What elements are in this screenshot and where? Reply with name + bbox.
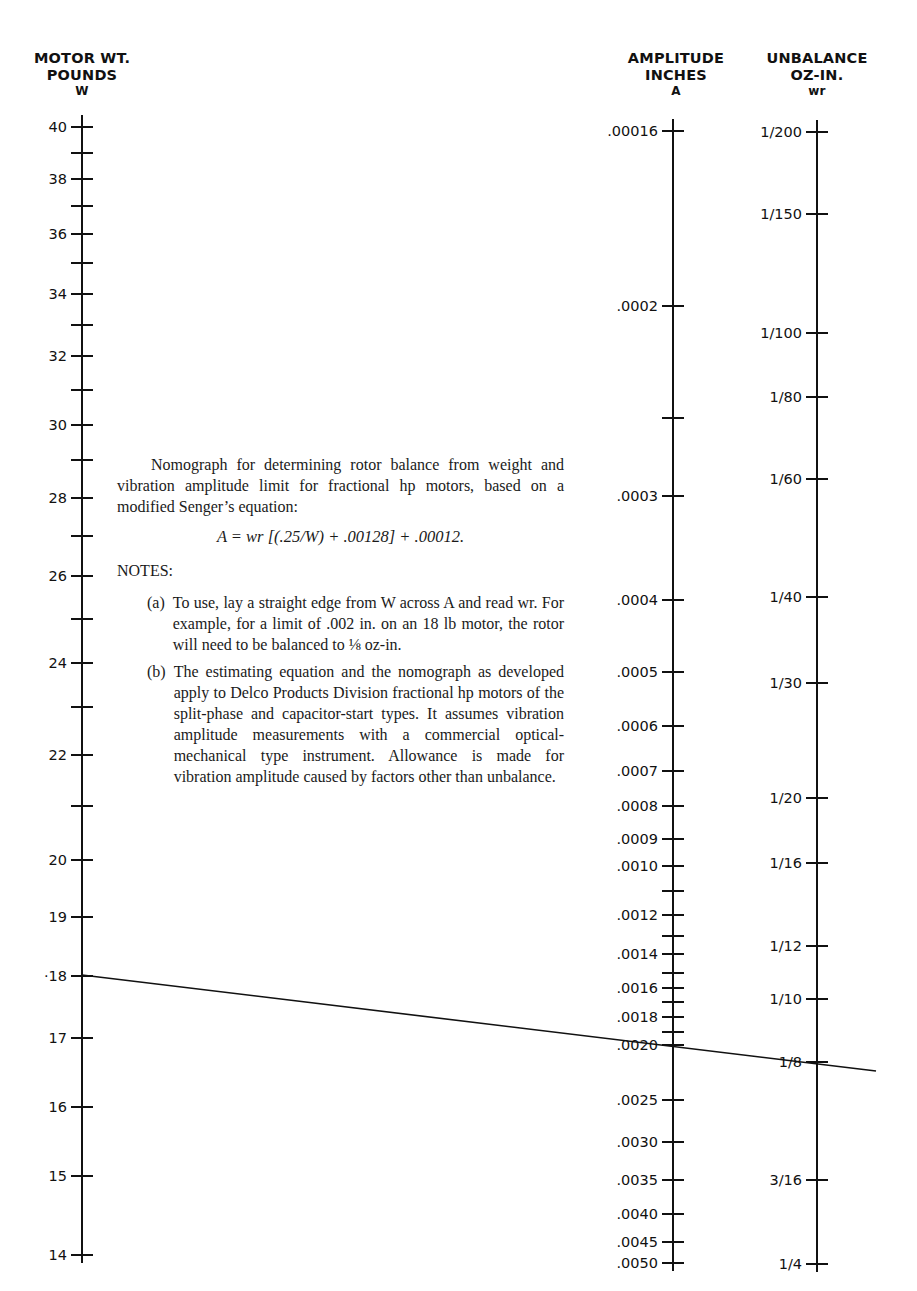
- example-straight-edge-line: [82, 975, 876, 1071]
- unbalance-tick-label: 1/10: [769, 991, 802, 1007]
- amplitude-tick-label: .0010: [616, 858, 658, 874]
- weight-tick-label: 38: [49, 171, 67, 187]
- unbalance-tick-label: 1/100: [760, 325, 802, 341]
- amplitude-tick-label: .0003: [616, 488, 658, 504]
- amplitude-tick-label: .0004: [616, 592, 658, 608]
- amplitude-tick-label: .0006: [616, 718, 658, 734]
- weight-tick-label: 34: [49, 286, 67, 302]
- amplitude-tick-label: .0008: [616, 798, 658, 814]
- amplitude-tick-label: .0025: [616, 1092, 658, 1108]
- amplitude-tick-label: .0045: [616, 1234, 658, 1250]
- weight-tick-label: 15: [49, 1168, 67, 1184]
- note-b: (b) The estimating equation and the nomo…: [117, 661, 564, 787]
- caption-intro: Nomograph for determining rotor balance …: [117, 454, 564, 517]
- amplitude-tick-label: .0005: [616, 664, 658, 680]
- note-b-mark: (b): [117, 661, 166, 787]
- weight-tick-label: 16: [49, 1099, 67, 1115]
- unbalance-tick-label: 1/16: [769, 855, 802, 871]
- weight-scale: 403836343230282624222019·1817161514: [44, 115, 93, 1263]
- notes-heading: NOTES:: [117, 560, 564, 581]
- unbalance-tick-label: 1/30: [769, 675, 802, 691]
- amplitude-tick-label: .0012: [616, 907, 658, 923]
- unbalance-tick-label: 1/60: [769, 471, 802, 487]
- weight-tick-label: 26: [49, 568, 67, 584]
- weight-tick-label: 24: [49, 655, 67, 671]
- unbalance-tick-label: 1/4: [779, 1256, 802, 1272]
- amplitude-tick-label: .0030: [616, 1134, 658, 1150]
- weight-tick-label: 36: [49, 226, 67, 242]
- weight-tick-label: 30: [49, 417, 67, 433]
- weight-tick-label: 28: [49, 490, 67, 506]
- note-b-text: The estimating equation and the nomograp…: [174, 661, 564, 787]
- weight-tick-label: ·18: [44, 968, 67, 984]
- amplitude-tick-label: .0018: [616, 1009, 658, 1025]
- weight-tick-label: 32: [49, 348, 67, 364]
- weight-tick-label: 40: [49, 119, 67, 135]
- amplitude-tick-label: .0007: [616, 763, 658, 779]
- note-a-mark: (a): [117, 592, 165, 655]
- unbalance-tick-label: 1/12: [769, 938, 802, 954]
- amplitude-tick-label: .0035: [616, 1172, 658, 1188]
- caption: Nomograph for determining rotor balance …: [117, 454, 564, 793]
- unbalance-tick-label: 1/80: [769, 389, 802, 405]
- weight-tick-label: 20: [49, 852, 67, 868]
- weight-tick-label: 17: [49, 1030, 67, 1046]
- note-a: (a) To use, lay a straight edge from W a…: [117, 592, 564, 655]
- equation-text: A = wr [(.25/W) + .00128] + .00012.: [217, 527, 464, 546]
- amplitude-tick-label: .00016: [607, 123, 658, 139]
- unbalance-scale: 1/2001/1501/1001/801/601/401/301/201/161…: [760, 120, 828, 1272]
- unbalance-tick-label: 1/20: [769, 790, 802, 806]
- unbalance-tick-label: 1/200: [760, 124, 802, 140]
- caption-equation: A = wr [(.25/W) + .00128] + .00012.: [117, 526, 564, 547]
- amplitude-tick-label: .0040: [616, 1206, 658, 1222]
- amplitude-scale: .00016.0002.0003.0004.0005.0006.0007.000…: [607, 119, 684, 1271]
- amplitude-tick-label: .0050: [616, 1255, 658, 1271]
- weight-tick-label: 22: [49, 747, 67, 763]
- unbalance-tick-label: 3/16: [769, 1172, 802, 1188]
- weight-tick-label: 14: [49, 1247, 67, 1263]
- unbalance-tick-label: 1/150: [760, 206, 802, 222]
- note-a-text: To use, lay a straight edge from W acros…: [173, 592, 564, 655]
- amplitude-tick-label: .0002: [616, 298, 658, 314]
- amplitude-tick-label: .0016: [616, 980, 658, 996]
- unbalance-tick-label: 1/40: [769, 589, 802, 605]
- amplitude-tick-label: .0014: [616, 946, 658, 962]
- weight-tick-label: 19: [49, 909, 67, 925]
- amplitude-tick-label: .0009: [616, 831, 658, 847]
- amplitude-tick-label: .0020: [616, 1037, 658, 1053]
